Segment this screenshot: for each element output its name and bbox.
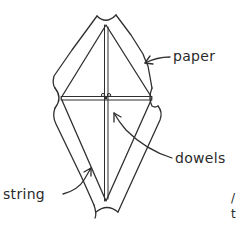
dowels-label: dowels — [175, 151, 226, 165]
edge-text-line2: t — [231, 208, 236, 220]
dowels-pointer-arrow — [114, 113, 172, 158]
paper-label: paper — [173, 49, 215, 63]
edge-text-line1: / — [231, 192, 235, 204]
string-outline — [61, 25, 152, 201]
dowels — [61, 25, 152, 201]
paper-pointer-arrow — [145, 56, 170, 64]
string-label: string — [3, 187, 45, 201]
